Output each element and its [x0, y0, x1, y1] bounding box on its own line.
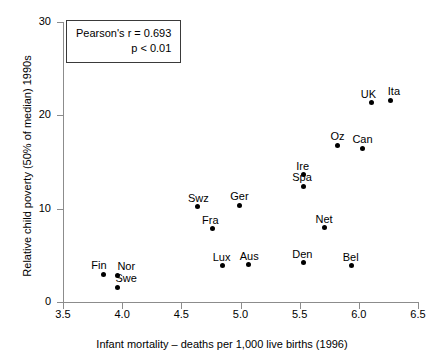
x-tick-label: 6.5: [398, 309, 438, 320]
statistics-annotation-box: Pearson's r = 0.693 p < 0.01: [66, 20, 181, 63]
data-point: [101, 272, 106, 277]
data-point-label: Ire: [296, 161, 309, 172]
data-point-label: Fin: [91, 260, 106, 271]
data-point-label: Nor: [117, 261, 135, 272]
y-tick-mark: [57, 209, 64, 210]
data-point-label: Aus: [240, 251, 259, 262]
data-point: [301, 184, 306, 189]
data-point-label: Fra: [202, 215, 219, 226]
data-point-label: Swz: [188, 193, 209, 204]
data-point: [115, 285, 120, 290]
data-point-label: Swe: [115, 273, 136, 284]
data-point-label: Net: [316, 214, 333, 225]
p-value-text: p < 0.01: [76, 41, 171, 56]
pearson-r-text: Pearson's r = 0.693: [76, 26, 171, 41]
scatter-chart: 0102030 3.54.04.55.05.56.06.5 FinNorSweS…: [0, 0, 444, 360]
x-tick-label: 6.0: [339, 309, 379, 320]
y-axis-title: Relative child poverty (50% of median) 1…: [21, 21, 33, 311]
y-tick-mark: [57, 22, 64, 23]
data-point: [301, 172, 306, 177]
data-point-label: Can: [352, 134, 372, 145]
x-axis-title: Infant mortality – deaths per 1,000 live…: [0, 338, 444, 350]
x-tick-label: 4.5: [161, 309, 201, 320]
data-point-label: Ger: [230, 191, 248, 202]
data-point-label: Bel: [343, 252, 359, 263]
x-tick-label: 5.0: [221, 309, 261, 320]
data-point: [360, 146, 365, 151]
data-point-label: Lux: [213, 252, 231, 263]
data-point-label: UK: [361, 89, 376, 100]
data-point: [210, 226, 215, 231]
x-tick-label: 4.0: [102, 309, 142, 320]
y-tick-mark: [57, 115, 64, 116]
y-axis-line: [63, 22, 64, 303]
data-point-label: Oz: [331, 131, 345, 142]
data-point: [237, 203, 242, 208]
data-point-label: Den: [292, 249, 312, 260]
x-tick-label: 3.5: [43, 309, 83, 320]
data-point-label: Ita: [388, 86, 400, 97]
data-point: [335, 143, 340, 148]
x-tick-label: 5.5: [280, 309, 320, 320]
